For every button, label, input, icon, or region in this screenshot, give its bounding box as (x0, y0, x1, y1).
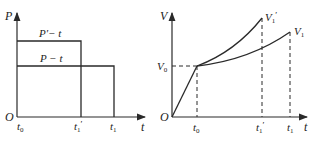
t1-tick-label: t1 (287, 121, 294, 135)
v1-prime-label: V1′ (265, 10, 277, 25)
acceleration-line (172, 66, 197, 117)
v0-tick-label: V0 (157, 60, 168, 74)
origin-label: O (160, 110, 169, 124)
v-axis-label: V (160, 9, 169, 23)
p-t-line (17, 66, 114, 117)
t1-prime-tick-label: t1′ (74, 119, 83, 134)
origin-label: O (5, 110, 14, 124)
diagram-canvas: P P′− t P − t O t0 t1′ t1 t V V0 V1′ V1 … (0, 0, 314, 141)
v1-prime-curve (197, 18, 262, 66)
t1-tick-label: t1 (110, 120, 117, 134)
velocity-time-chart: V V0 V1′ V1 O t0 t1′ t1 t (157, 9, 308, 135)
t-axis-label: t (304, 120, 308, 134)
t0-tick-label: t0 (17, 120, 24, 134)
t-axis-label: t (141, 120, 145, 134)
p-t-label: P − t (39, 52, 63, 64)
power-time-chart: P P′− t P − t O t0 t1′ t1 t (4, 9, 145, 134)
t0-tick-label: t0 (193, 121, 200, 135)
t1-prime-tick-label: t1′ (256, 120, 265, 135)
p-axis-label: P (4, 9, 13, 23)
v1-label: V1 (294, 25, 305, 39)
p-prime-t-label: P′− t (38, 27, 62, 39)
